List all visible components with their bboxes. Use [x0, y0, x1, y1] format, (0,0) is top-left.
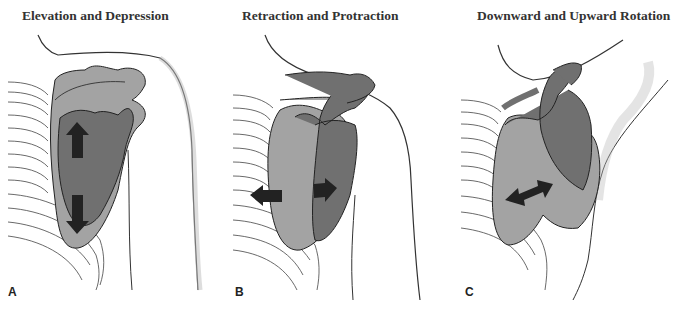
panel-elevation-depression: Elevation and Depression A: [0, 0, 230, 315]
scapula-retraction-illustration: [225, 0, 455, 315]
panel-label: B: [235, 285, 244, 299]
panel-rotation: Downward and Upward Rotation C: [453, 0, 683, 315]
panel-label: A: [8, 285, 17, 299]
scapula-rotation-illustration: [453, 0, 683, 315]
scapula-elevation-illustration: [0, 0, 230, 315]
panel-retraction-protraction: Retraction and Protraction B: [225, 0, 455, 315]
panel-label: C: [465, 285, 474, 299]
